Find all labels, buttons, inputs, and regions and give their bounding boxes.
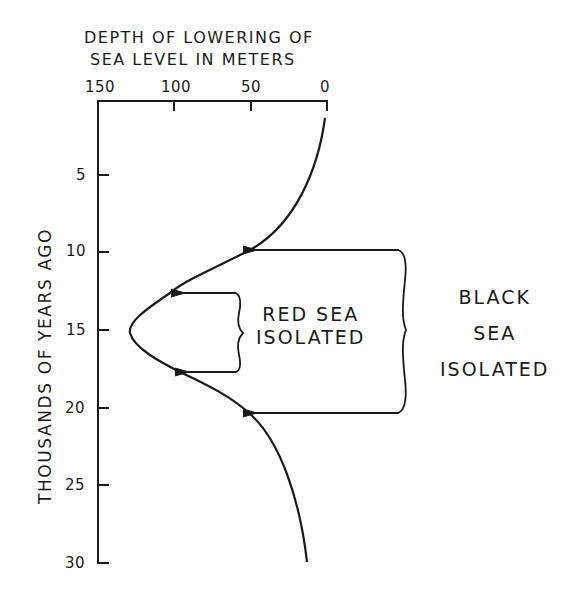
chart-plot	[0, 0, 578, 594]
red-sea-brace	[236, 293, 243, 372]
sea-level-curve	[130, 118, 325, 562]
black-sea-brace	[398, 250, 406, 413]
